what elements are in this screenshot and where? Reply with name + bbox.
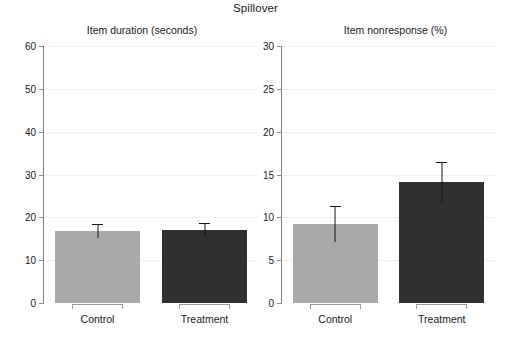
gridline <box>44 132 258 133</box>
y-tick-label: 60 <box>25 41 36 52</box>
y-tick-mark <box>39 217 44 218</box>
gridline <box>282 175 495 176</box>
plot-area-item-duration: 0102030405060ControlTreatment <box>44 46 258 303</box>
x-axis-bracket <box>416 304 467 309</box>
gridline <box>44 46 258 47</box>
error-bar-control <box>335 206 336 242</box>
panel-title-item-duration: Item duration (seconds) <box>0 24 262 36</box>
y-tick-mark <box>39 303 44 304</box>
y-tick-mark <box>277 260 282 261</box>
bar-control <box>55 231 141 303</box>
error-bar-treatment <box>204 223 205 237</box>
y-tick-label: 20 <box>263 126 274 137</box>
error-bar-treatment <box>441 162 442 202</box>
bar-treatment <box>162 230 248 303</box>
y-tick-label: 15 <box>263 169 274 180</box>
gridline <box>44 175 258 176</box>
gridline <box>44 89 258 90</box>
y-tick-mark <box>39 175 44 176</box>
y-tick-label: 10 <box>263 212 274 223</box>
y-tick-mark <box>277 175 282 176</box>
y-tick-mark <box>277 46 282 47</box>
y-tick-label: 40 <box>25 126 36 137</box>
x-axis-bracket <box>310 304 361 309</box>
y-tick-mark <box>39 132 44 133</box>
y-tick-label: 0 <box>30 298 36 309</box>
y-tick-mark <box>39 260 44 261</box>
error-bar-cap-top <box>199 223 210 224</box>
y-tick-label: 5 <box>268 255 274 266</box>
panel-item-nonresponse: Item nonresponse (%) 051015202530Control… <box>250 0 511 337</box>
y-tick-mark <box>277 303 282 304</box>
gridline <box>282 132 495 133</box>
x-axis-bracket <box>72 304 123 309</box>
y-tick-label: 20 <box>25 212 36 223</box>
y-tick-mark <box>39 46 44 47</box>
gridline <box>282 46 495 47</box>
y-tick-mark <box>277 89 282 90</box>
x-axis-bracket <box>179 304 230 309</box>
gridline <box>44 217 258 218</box>
y-tick-label: 0 <box>268 298 274 309</box>
gridline <box>282 89 495 90</box>
panel-item-duration: Item duration (seconds) 0102030405060Con… <box>0 0 262 337</box>
error-bar-cap-top <box>436 162 447 163</box>
y-tick-label: 10 <box>25 255 36 266</box>
y-tick-mark <box>277 132 282 133</box>
y-tick-label: 50 <box>25 83 36 94</box>
y-tick-label: 30 <box>25 169 36 180</box>
y-tick-mark <box>39 89 44 90</box>
x-axis-label-treatment: Treatment <box>418 313 465 325</box>
panel-title-item-nonresponse: Item nonresponse (%) <box>250 24 511 36</box>
error-bar-cap-top <box>92 224 103 225</box>
x-axis-label-treatment: Treatment <box>181 313 228 325</box>
y-tick-label: 25 <box>263 83 274 94</box>
y-tick-label: 30 <box>263 41 274 52</box>
y-tick-mark <box>277 217 282 218</box>
plot-area-item-nonresponse: 051015202530ControlTreatment <box>282 46 495 303</box>
x-axis-label-control: Control <box>318 313 352 325</box>
x-axis-label-control: Control <box>81 313 115 325</box>
error-bar-cap-top <box>330 206 341 207</box>
error-bar-control <box>97 224 98 238</box>
chart-figure: Spillover Item duration (seconds) 010203… <box>0 0 511 337</box>
